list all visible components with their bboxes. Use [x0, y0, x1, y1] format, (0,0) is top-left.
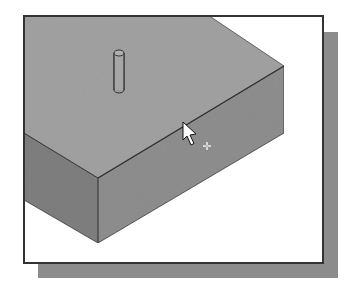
- cad-scene[interactable]: [23, 15, 324, 264]
- viewport-frame[interactable]: [23, 15, 324, 264]
- cylinder-pin-feature[interactable]: [114, 50, 124, 93]
- cylinder-top-edge: [114, 50, 124, 56]
- cylinder-body: [115, 53, 124, 90]
